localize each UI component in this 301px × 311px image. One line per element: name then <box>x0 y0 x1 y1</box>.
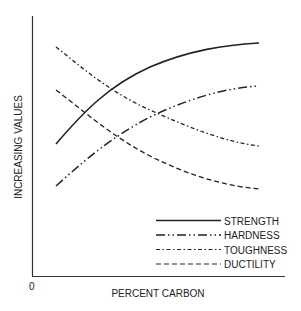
legend-label-hardness: HARDNESS <box>224 230 280 241</box>
hardness-curve <box>56 86 259 186</box>
strength-curve <box>56 43 259 144</box>
toughness-curve <box>56 47 259 146</box>
x-axis-label: PERCENT CARBON <box>111 288 204 299</box>
legend: STRENGTH HARDNESS TOUGHNESS DUCTILITY <box>156 216 287 271</box>
ductility-curve <box>56 90 259 189</box>
legend-label-toughness: TOUGHNESS <box>224 245 287 256</box>
y-axis-label: INCREASING VALUES <box>13 95 24 199</box>
x-origin-label: 0 <box>29 281 35 292</box>
legend-label-ductility: DUCTILITY <box>224 259 276 270</box>
chart-canvas: STRENGTH HARDNESS TOUGHNESS DUCTILITY 0 … <box>0 0 301 311</box>
legend-label-strength: STRENGTH <box>224 216 279 227</box>
